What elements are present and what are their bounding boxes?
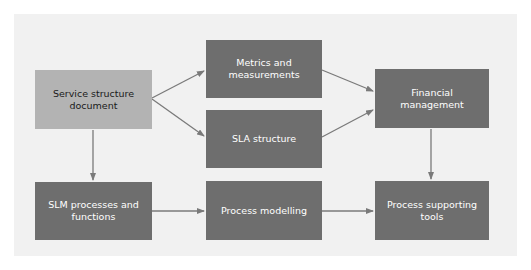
node-sla-structure: SLA structure xyxy=(206,110,322,168)
node-financial-management: Financial management xyxy=(375,69,489,128)
node-label: SLM processes and functions xyxy=(41,199,146,223)
arrow-service-to-sla xyxy=(152,99,204,136)
node-label: Financial management xyxy=(381,87,483,111)
node-process-modelling: Process modelling xyxy=(206,181,322,240)
node-label: Metrics and measurements xyxy=(212,57,316,81)
node-label: Service structure document xyxy=(41,88,146,112)
arrow-sla-to-financial xyxy=(322,110,373,137)
node-label: SLA structure xyxy=(232,133,296,145)
node-metrics-and-measurements: Metrics and measurements xyxy=(206,40,322,98)
node-slm-processes-and-functions: SLM processes and functions xyxy=(35,182,152,240)
node-service-structure-document: Service structure document xyxy=(35,70,152,129)
arrow-metrics-to-financial xyxy=(322,70,373,91)
node-label: Process supporting tools xyxy=(381,199,483,223)
node-label: Process modelling xyxy=(221,205,307,217)
node-process-supporting-tools: Process supporting tools xyxy=(375,181,489,240)
arrow-service-to-metrics xyxy=(152,71,204,98)
